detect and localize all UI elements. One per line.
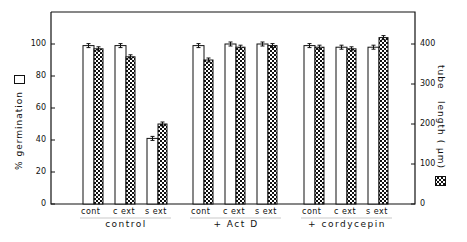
left-tick-label: 0 [26, 199, 46, 208]
category-label: cont [302, 207, 322, 216]
group-label: + Act D [213, 219, 258, 229]
checkered-bar-legend-icon [435, 176, 446, 186]
category-label: c ext [113, 207, 135, 216]
right-tick-label: 100 [420, 159, 435, 168]
left-tick-label: 80 [26, 71, 46, 80]
category-label: cont [191, 207, 211, 216]
right-tick-label: 0 [420, 199, 425, 208]
left-tick-label: 20 [26, 167, 46, 176]
right-tick-label: 400 [420, 39, 435, 48]
bars [80, 36, 392, 218]
category-label: c ext [223, 207, 245, 216]
left-tick-label: 40 [26, 135, 46, 144]
category-label: s ext [255, 207, 277, 216]
right-tick-label: 300 [420, 79, 435, 88]
category-label: c ext [334, 207, 356, 216]
left-tick-label: 60 [26, 103, 46, 112]
right-tick-label: 200 [420, 119, 435, 128]
chart-canvas [0, 0, 467, 242]
left-axis-label: % germination [14, 75, 25, 170]
left-tick-label: 100 [26, 39, 46, 48]
category-label: s ext [145, 207, 167, 216]
category-label: cont [81, 207, 101, 216]
group-label: control [105, 219, 147, 229]
group-label: + cordycepin [308, 219, 386, 229]
category-label: s ext [366, 207, 388, 216]
right-axis-label: tube length ( µm) [435, 65, 446, 186]
open-bar-legend-icon [14, 75, 25, 84]
